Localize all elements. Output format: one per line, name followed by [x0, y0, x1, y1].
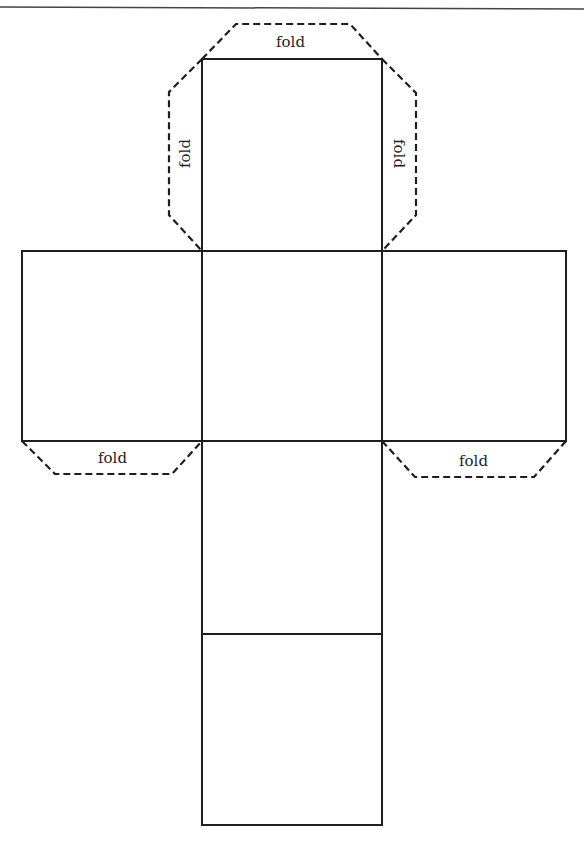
- face-lower: [202, 441, 382, 634]
- fold-label-top-left: fold: [178, 139, 193, 168]
- face-right: [382, 251, 566, 441]
- face-top: [202, 59, 382, 251]
- face-bottom: [202, 634, 382, 825]
- fold-label-bottom-left: fold: [98, 451, 127, 466]
- fold-label-top: fold: [276, 35, 305, 50]
- fold-label-bottom-right: fold: [459, 454, 488, 469]
- face-left: [22, 251, 202, 441]
- page-border-top: [0, 7, 584, 9]
- fold-label-top-right: fold: [391, 139, 406, 168]
- cube-net-diagram: [0, 0, 584, 847]
- face-center: [202, 251, 382, 441]
